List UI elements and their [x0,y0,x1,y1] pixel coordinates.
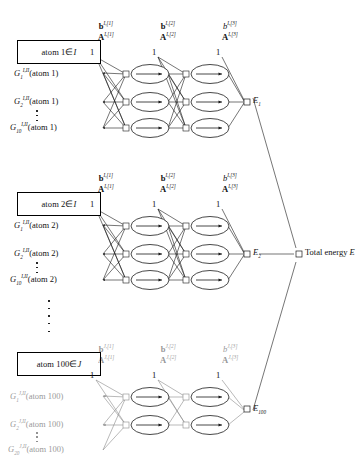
weight-label-3-3: bJ,[3] AJ,[3] [222,343,238,365]
bias-input-2-3: 1 [216,199,220,209]
atom-box-1: atom 1∈I [17,40,101,64]
bias-input-1-2: 1 [152,47,156,57]
bias-input-3-3: 1 [216,370,220,380]
block-3-edges [96,380,244,450]
input-ellipsis-2 [35,262,39,273]
bias-input-3-2: 1 [152,370,156,380]
weight-label-2-3: bI,[3] AI,[3] [222,172,238,194]
block-2-units [123,217,250,290]
input-ellipsis-3 [35,432,39,442]
weight-label-1-3: bI,[3] AI,[3] [222,20,238,42]
weight-label-2-1: bI,[1] AI,[1] [98,172,114,194]
input-label-3-1: G1J,II(atom 100) [10,390,63,403]
input-label-1-1: G1I,II(atom 1) [14,67,58,80]
input-label-3-3: G20J,II(atom 100) [8,443,64,456]
weight-label-3-2: bJ,[2] AJ,[2] [160,343,176,365]
total-energy-label: Total energy E [305,247,355,257]
weight-label-3-1: bJ,[1] AJ,[1] [98,343,114,365]
input-label-2-3: G10I,II(atom 2) [10,273,57,286]
input-label-1-3: G10I,II(atom 1) [10,121,57,134]
atom-box-2: atom 2∈I [17,192,101,216]
weight-label-1-2: bI,[2] AI,[2] [160,20,176,42]
weight-label-1-1: bI,[1] AI,[1] [98,20,114,42]
input-label-2-2: G2I,II(atom 2) [14,247,58,260]
bias-input-1-1: 1 [90,47,94,57]
input-ellipsis-1 [35,110,39,121]
figure-canvas: atom 1∈I G1I,II(atom 1) G2I,II(atom 1) G… [0,0,362,463]
block-3-units [123,388,250,435]
atomic-energy-100: E100 [253,403,266,415]
block-1-units [123,65,250,138]
weight-label-2-2: bI,[2] AI,[2] [160,172,176,194]
bias-input-2-1: 1 [90,199,94,209]
atom-box-100: atom 100∈J [17,352,101,376]
bias-input-3-1: 1 [90,370,94,380]
atomic-energy-2: E2 [253,247,261,259]
input-label-1-2: G2I,II(atom 1) [14,95,58,108]
bias-input-2-2: 1 [152,199,156,209]
total-energy-sum-node [296,251,302,257]
atomic-energy-1: E1 [253,95,261,107]
block-1-edges [96,57,244,128]
block-ellipsis [47,300,51,332]
input-label-3-2: G2J,II(atom 100) [10,418,63,431]
atom-box-1-label: atom 1∈I [41,47,76,57]
atom-box-2-label: atom 2∈I [41,199,76,209]
atom-box-100-label: atom 100∈J [37,359,82,369]
input-label-2-1: G1I,II(atom 2) [14,219,58,232]
block-2-edges [96,209,244,280]
bias-input-1-3: 1 [216,47,220,57]
